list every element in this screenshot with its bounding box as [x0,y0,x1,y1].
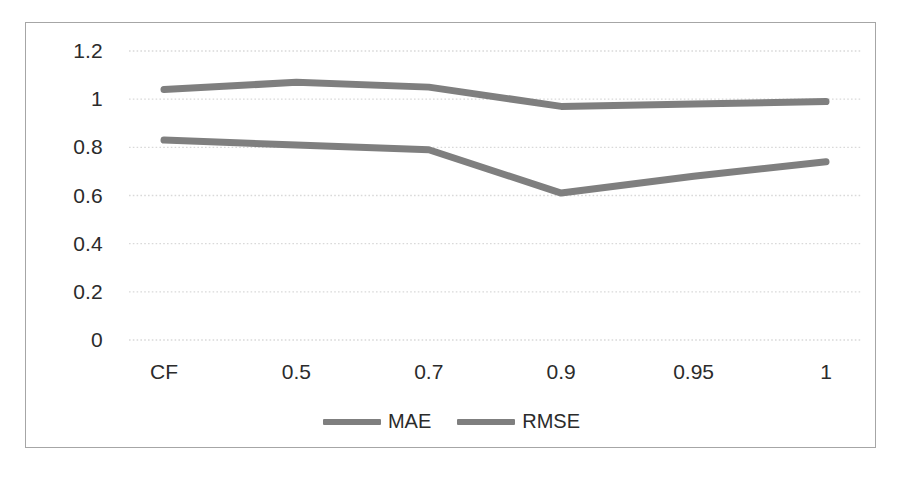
x-axis-tick-label: 0.9 [547,360,576,384]
plot-area: 00.20.40.60.811.2 CF0.50.70.90.951 [26,23,877,449]
chart-legend: MAERMSE [26,410,877,433]
y-axis-tick-label: 0.4 [41,232,103,256]
series-line-mae [164,140,826,193]
legend-item-rmse[interactable]: RMSE [457,410,580,433]
x-axis-tick-label: 0.95 [673,360,714,384]
y-axis-tick-label: 0.2 [41,280,103,304]
x-axis-tick-label: 0.7 [414,360,443,384]
y-axis-tick-label: 0 [41,328,103,352]
y-axis-tick-label: 0.6 [41,184,103,208]
legend-label: MAE [388,410,431,433]
legend-item-mae[interactable]: MAE [323,410,431,433]
data-series [26,23,877,449]
x-axis-tick-label: 0.5 [282,360,311,384]
series-line-rmse [164,82,826,106]
x-axis-tick-label: 1 [820,360,832,384]
legend-line-swatch-icon [323,419,381,425]
y-axis-tick-label: 0.8 [41,135,103,159]
chart-container: 00.20.40.60.811.2 CF0.50.70.90.951 MAERM… [25,22,876,448]
y-axis-tick-label: 1 [41,87,103,111]
x-axis-tick-label: CF [150,360,178,384]
gridlines [26,23,877,449]
y-axis-tick-label: 1.2 [41,39,103,63]
legend-label: RMSE [522,410,580,433]
legend-line-swatch-icon [457,419,515,425]
